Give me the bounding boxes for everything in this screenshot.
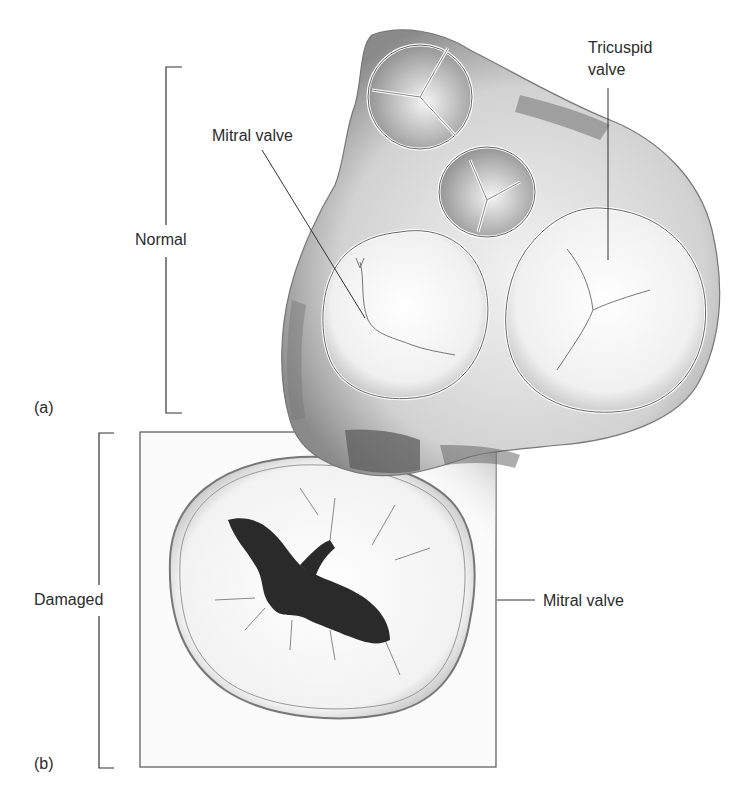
panel-a-label: (a) bbox=[34, 398, 54, 417]
damaged-group-label: Damaged bbox=[34, 590, 103, 609]
heart-valves-illustration bbox=[0, 0, 742, 803]
aortic-valve bbox=[439, 147, 535, 237]
normal-group-label: Normal bbox=[135, 230, 187, 249]
damaged-mitral-valve bbox=[170, 457, 475, 718]
panel-b-label: (b) bbox=[34, 754, 54, 773]
normal-tricuspid-valve bbox=[506, 208, 706, 412]
mitral-valve-b-label: Mitral valve bbox=[543, 591, 624, 610]
mitral-valve-a-label: Mitral valve bbox=[212, 126, 293, 145]
pulmonary-valve bbox=[368, 45, 472, 149]
normal-mitral-valve bbox=[323, 231, 488, 399]
tricuspid-valve-label-line1: Tricuspid bbox=[588, 38, 652, 57]
tricuspid-valve-label-line2: valve bbox=[588, 60, 625, 79]
